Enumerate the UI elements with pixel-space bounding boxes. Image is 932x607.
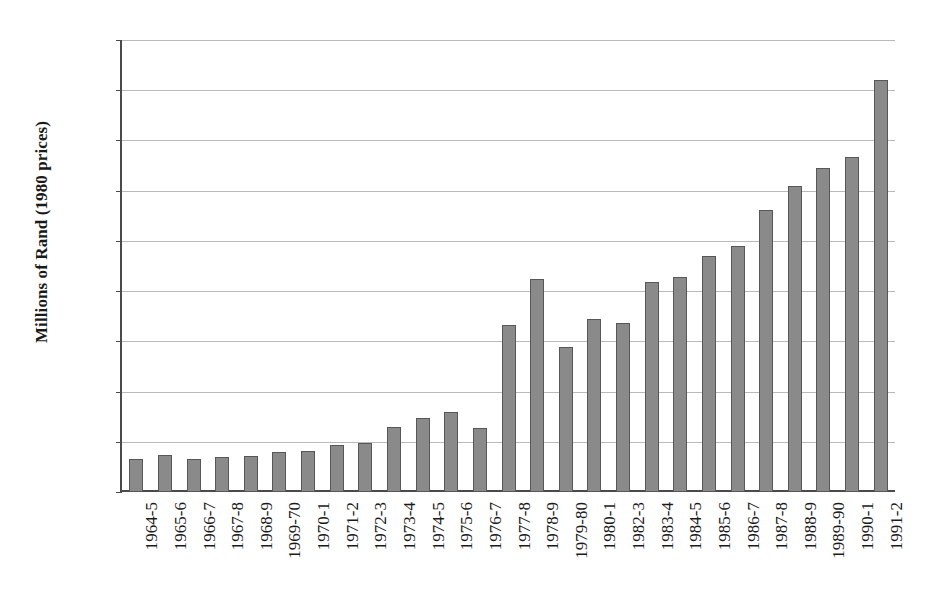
x-tick-label-text: 1983-4 xyxy=(658,498,678,588)
x-tick-label-text: 1989-90 xyxy=(829,498,849,588)
x-tick-label: 1968-9 xyxy=(257,498,277,588)
bar xyxy=(416,418,430,492)
x-tick-label-text: 1975-6 xyxy=(457,498,477,588)
bar xyxy=(874,80,888,492)
x-tick-label: 1969-70 xyxy=(285,498,305,588)
bar xyxy=(645,282,659,492)
x-tick-label: 1991-2 xyxy=(887,498,907,588)
x-tick-label-text: 1988-9 xyxy=(801,498,821,588)
x-tick-label-text: 1976-7 xyxy=(486,498,506,588)
x-tick-label: 1977-8 xyxy=(515,498,535,588)
x-tick-label: 1985-6 xyxy=(715,498,735,588)
bar xyxy=(272,452,286,492)
x-tick-label-text: 1982-3 xyxy=(629,498,649,588)
bar xyxy=(759,210,773,492)
x-tick-label-text: 1966-7 xyxy=(200,498,220,588)
x-tick-label-text: 1985-6 xyxy=(715,498,735,588)
x-tick-label-text: 1980-1 xyxy=(600,498,620,588)
x-tick-label: 1975-6 xyxy=(457,498,477,588)
x-tick-label-text: 1973-4 xyxy=(400,498,420,588)
x-axis-labels: 1964-51965-61966-71967-81968-91969-70197… xyxy=(122,496,895,606)
bar xyxy=(559,347,573,492)
bar xyxy=(731,246,745,492)
bar xyxy=(788,186,802,492)
bars-layer xyxy=(122,40,895,492)
x-tick-label: 1978-9 xyxy=(543,498,563,588)
plot-area: 0100200300400500600700800900 xyxy=(122,40,895,492)
x-tick-label: 1988-9 xyxy=(801,498,821,588)
bar xyxy=(301,451,315,492)
x-tick-label-text: 1986-7 xyxy=(744,498,764,588)
x-tick-label: 1989-90 xyxy=(829,498,849,588)
x-tick-label-text: 1965-6 xyxy=(171,498,191,588)
bar xyxy=(358,443,372,492)
x-tick-label: 1966-7 xyxy=(200,498,220,588)
bar xyxy=(215,457,229,492)
x-tick-label: 1964-5 xyxy=(142,498,162,588)
bar xyxy=(444,412,458,492)
bar xyxy=(473,428,487,492)
x-tick-label-text: 1972-3 xyxy=(371,498,391,588)
bar xyxy=(129,459,143,492)
bar xyxy=(702,256,716,492)
bar-chart: Millions of Rand (1980 prices) 010020030… xyxy=(0,0,932,607)
x-tick-label: 1983-4 xyxy=(658,498,678,588)
x-tick-label-text: 1979-80 xyxy=(572,498,592,588)
x-tick-label: 1984-5 xyxy=(686,498,706,588)
x-tick-label-text: 1991-2 xyxy=(887,498,907,588)
bar xyxy=(158,455,172,492)
x-tick-label-text: 1987-8 xyxy=(772,498,792,588)
x-tick-label-text: 1964-5 xyxy=(142,498,162,588)
x-tick-label: 1970-1 xyxy=(314,498,334,588)
x-tick-label-text: 1978-9 xyxy=(543,498,563,588)
y-axis-title: Millions of Rand (1980 prices) xyxy=(32,82,52,382)
x-tick-label: 1986-7 xyxy=(744,498,764,588)
bar xyxy=(502,325,516,492)
x-tick-label: 1976-7 xyxy=(486,498,506,588)
bar xyxy=(673,277,687,492)
bar xyxy=(845,157,859,492)
x-tick-label: 1990-1 xyxy=(858,498,878,588)
x-tick-label: 1971-2 xyxy=(343,498,363,588)
bar xyxy=(187,459,201,492)
x-tick-label-text: 1984-5 xyxy=(686,498,706,588)
bar xyxy=(816,168,830,492)
x-tick-label: 1980-1 xyxy=(600,498,620,588)
bar xyxy=(330,445,344,492)
x-tick-label: 1987-8 xyxy=(772,498,792,588)
x-tick-label-text: 1969-70 xyxy=(285,498,305,588)
x-tick-label-text: 1968-9 xyxy=(257,498,277,588)
x-tick-label-text: 1974-5 xyxy=(429,498,449,588)
x-tick-label: 1972-3 xyxy=(371,498,391,588)
x-tick-label-text: 1970-1 xyxy=(314,498,334,588)
x-tick-label: 1979-80 xyxy=(572,498,592,588)
bar xyxy=(244,456,258,492)
y-tick-mark xyxy=(116,492,122,493)
bar xyxy=(587,319,601,492)
x-tick-label-text: 1990-1 xyxy=(858,498,878,588)
x-tick-label: 1973-4 xyxy=(400,498,420,588)
x-tick-label-text: 1967-8 xyxy=(228,498,248,588)
x-tick-label-text: 1977-8 xyxy=(515,498,535,588)
bar xyxy=(530,279,544,492)
bar xyxy=(616,323,630,492)
bar xyxy=(387,427,401,492)
x-tick-label: 1967-8 xyxy=(228,498,248,588)
x-tick-label-text: 1971-2 xyxy=(343,498,363,588)
x-tick-label: 1982-3 xyxy=(629,498,649,588)
x-tick-label: 1965-6 xyxy=(171,498,191,588)
x-tick-label: 1974-5 xyxy=(429,498,449,588)
